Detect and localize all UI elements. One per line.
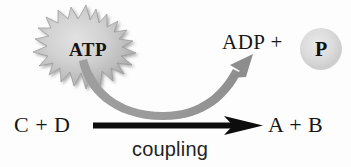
products-label: A + B: [268, 112, 323, 138]
coupling-label: coupling: [110, 138, 230, 161]
reactants-label: C + D: [14, 112, 70, 138]
reaction-arrow: [93, 113, 263, 139]
adp-label: ADP +: [222, 30, 283, 55]
atp-coupling-diagram: ATP C + D A + B coupling ADP + P: [0, 0, 351, 167]
phosphate-label: P: [300, 28, 342, 70]
